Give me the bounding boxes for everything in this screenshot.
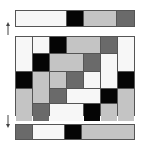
arrow-up-icon (5, 22, 11, 36)
bar-segment-white (16, 11, 67, 26)
bar-segment-lightgray (84, 11, 117, 26)
grid-cell-black (118, 72, 134, 88)
grid-cell-lightgray (16, 89, 32, 121)
grid-cell-lightgray (67, 37, 100, 53)
bar-segment-black (65, 125, 82, 139)
grid-cell-white (101, 54, 117, 88)
grid-cell-darkgray (101, 37, 117, 53)
grid-cell-white (118, 37, 134, 71)
grid-cell-darkgray (50, 89, 66, 103)
grid-cell-darkgray (33, 104, 49, 121)
bar-segment-darkgray (117, 11, 134, 26)
grid-cell-darkgray (67, 72, 83, 88)
bar-segment-darkgray (16, 125, 33, 139)
bottom-color-bar (15, 124, 135, 140)
grid-cell-lightgray (33, 72, 49, 103)
grid-cell-white (67, 89, 100, 103)
grid-cell-lightgray (50, 54, 83, 71)
bar-segment-lightgray (82, 125, 134, 139)
arrow-down-icon (5, 114, 11, 128)
grid-cell-black (84, 104, 100, 121)
arrow-up-svg (5, 22, 11, 36)
grid-cell-darkgray (84, 54, 100, 71)
bar-segment-black (67, 11, 84, 26)
grid-cell-lightgray (101, 104, 117, 121)
grid-cell-lightgray (118, 89, 134, 121)
grid-cell-black (50, 37, 66, 53)
bar-segment-white (33, 125, 65, 139)
grid-cell-black (101, 89, 117, 103)
grid-cell-lightgray (50, 72, 66, 88)
mosaic-grid (15, 36, 135, 116)
grid-cell-white (33, 37, 49, 53)
grid-cell-white (50, 104, 83, 121)
top-color-bar (15, 10, 135, 27)
grid-cell-white (84, 72, 100, 88)
arrow-down-svg (5, 114, 11, 128)
grid-cell-black (16, 72, 32, 88)
grid-cell-white (16, 37, 32, 71)
grid-cell-black (33, 54, 49, 71)
